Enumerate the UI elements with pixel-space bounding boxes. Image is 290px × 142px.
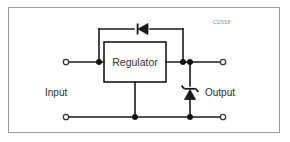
ground-regulator-junction <box>132 114 137 119</box>
input-node-junction <box>96 59 101 64</box>
figure-root: Regulator Input Output CD558 <box>0 0 290 142</box>
output-label: Output <box>205 88 235 98</box>
output-node-junction <box>180 59 185 64</box>
input-positive-terminal[interactable] <box>63 59 68 64</box>
zener-tick-right <box>196 89 199 92</box>
zener-diode-icon <box>182 86 199 100</box>
output-positive-terminal[interactable] <box>220 59 225 64</box>
input-negative-terminal[interactable] <box>63 114 68 119</box>
ground-zener-junction <box>187 114 192 119</box>
circuit-schematic <box>0 0 290 142</box>
protection-diode-triangle <box>138 24 148 35</box>
regulator-block-label: Regulator <box>104 57 166 68</box>
protection-diode-icon <box>138 24 148 35</box>
output-negative-terminal[interactable] <box>220 114 225 119</box>
output-rail-junction <box>187 59 192 64</box>
input-label: Input <box>45 88 67 98</box>
zener-tick-left <box>182 86 185 89</box>
part-code-label: CD558 <box>213 20 231 25</box>
zener-diode-triangle <box>185 90 196 100</box>
